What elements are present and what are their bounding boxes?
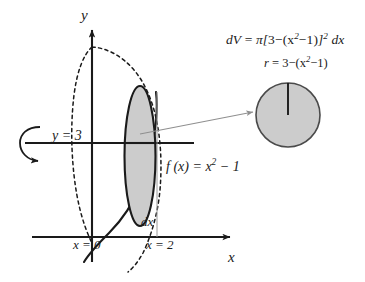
radius-equation: r = 3−(x2−1) xyxy=(264,57,328,70)
dv-equals: = xyxy=(241,32,256,47)
function-label: f (x) = x2 − 1 xyxy=(166,160,240,174)
cross-section-circle xyxy=(256,83,320,147)
function-label-main: f (x) = x xyxy=(166,159,212,174)
dv-lhs: dV xyxy=(226,32,241,47)
x-axis-label: x xyxy=(228,250,235,265)
thickness-label: dx xyxy=(141,215,153,228)
axis-of-revolution-label: y = 3 xyxy=(52,129,82,143)
volume-element-equation: dV = π[3−(x2−1)]2 dx xyxy=(226,33,344,47)
disk-slice xyxy=(125,86,156,226)
volume-of-revolution-figure: y x y = 3 x = 0 x = 2 dx f (x) = x2 − 1 … xyxy=(0,0,365,282)
r-equals: = xyxy=(269,56,282,70)
function-label-tail: − 1 xyxy=(216,159,239,174)
y-axis-label: y xyxy=(81,8,88,23)
lower-bound-label: x = 0 xyxy=(73,238,101,251)
r-inner: 3−(x xyxy=(282,56,306,70)
r-inner-tail: −1) xyxy=(310,56,327,70)
pi-symbol: π xyxy=(256,32,263,47)
dv-inner-tail: −1) xyxy=(299,32,318,47)
dv-differential: dx xyxy=(328,32,344,47)
dv-inner: 3−(x xyxy=(268,32,294,47)
upper-bound-label: x = 2 xyxy=(146,238,174,251)
